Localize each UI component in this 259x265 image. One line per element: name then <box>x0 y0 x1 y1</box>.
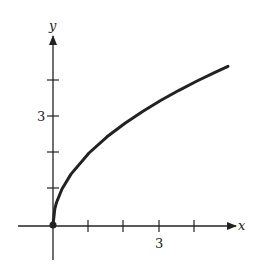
x-axis-label: x <box>238 218 246 233</box>
x-tick-label-3: 3 <box>155 236 163 251</box>
y-tick-label-3: 3 <box>37 109 45 124</box>
y-axis-label: y <box>48 18 57 33</box>
origin-point <box>50 222 57 229</box>
curve-y-2-sqrt-x <box>53 66 228 225</box>
chart: x y 3 3 <box>0 0 259 265</box>
